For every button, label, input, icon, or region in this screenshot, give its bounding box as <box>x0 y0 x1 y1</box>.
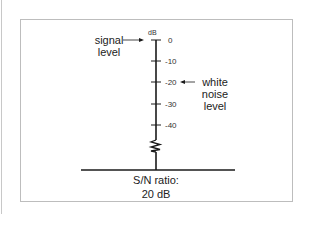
noise-label-line3: level <box>198 100 232 112</box>
signal-label-line1: signal <box>92 34 126 46</box>
axis-unit-label: dB <box>148 29 157 37</box>
signal-label-line2: level <box>92 46 126 58</box>
tick-label-0: 0 <box>168 36 172 45</box>
sn-ratio-label: S/N ratio: 20 dB <box>121 173 191 201</box>
noise-label-line1: white <box>198 76 232 88</box>
tick-label-30: -30 <box>165 100 177 109</box>
white-noise-level-label: white noise level <box>198 76 232 112</box>
tick-label-20: -20 <box>165 78 177 87</box>
ratio-label-line1: S/N ratio: <box>121 173 191 187</box>
tick-label-40: -40 <box>165 121 177 130</box>
noise-label-line2: noise <box>198 88 232 100</box>
noise-arrowhead-icon <box>180 80 185 84</box>
tick-label-10: -10 <box>165 57 177 66</box>
signal-level-label: signal level <box>92 34 126 58</box>
axis-break-icon <box>151 140 160 152</box>
signal-arrowhead-icon <box>139 38 144 42</box>
ratio-label-line2: 20 dB <box>121 187 191 201</box>
